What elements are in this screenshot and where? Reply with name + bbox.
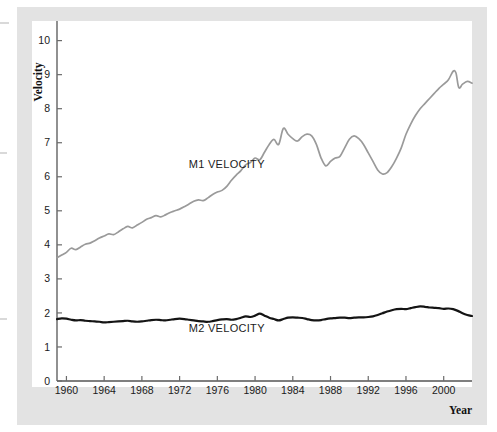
x-axis-tick-label: 1992 bbox=[357, 384, 381, 396]
y-axis-tick-label: 8 bbox=[44, 102, 50, 114]
y-axis-tick-label: 4 bbox=[44, 238, 50, 250]
series-line-m2-velocity bbox=[57, 306, 472, 322]
y-axis-tick-label: 0 bbox=[44, 375, 50, 387]
y-axis-title: Velocity bbox=[32, 62, 45, 101]
x-axis-tick-label: 2000 bbox=[432, 384, 456, 396]
y-axis-tick-label: 1 bbox=[44, 341, 50, 353]
y-axis-tick-label: 10 bbox=[38, 34, 50, 46]
x-axis-tick-label: 1984 bbox=[281, 384, 305, 396]
y-axis-tick-label: 2 bbox=[44, 307, 50, 319]
x-axis-tick-label: 1960 bbox=[55, 384, 79, 396]
series-annotation-m2-velocity: M2 VELOCITY bbox=[189, 322, 265, 334]
y-axis-tick-label: 9 bbox=[44, 68, 50, 80]
x-axis-tick-label: 1980 bbox=[243, 384, 267, 396]
annotation-layer: M1 VELOCITYM2 VELOCITY bbox=[189, 158, 265, 333]
series-annotation-m1-velocity: M1 VELOCITY bbox=[189, 158, 265, 170]
y-axis-tick-label: 5 bbox=[44, 204, 50, 216]
figure-container: 0123456789101960196419681972197619801984… bbox=[0, 0, 497, 432]
x-axis-tick-label: 1996 bbox=[394, 384, 418, 396]
x-axis-tick-label: 1964 bbox=[92, 384, 116, 396]
x-axis-title: Year bbox=[449, 404, 472, 416]
y-axis-tick-label: 6 bbox=[44, 170, 50, 182]
y-axis-tick-label: 3 bbox=[44, 272, 50, 284]
y-axis-tick-label: 7 bbox=[44, 136, 50, 148]
series-layer bbox=[57, 71, 472, 323]
x-axis-tick-label: 1988 bbox=[319, 384, 343, 396]
x-axis-tick-label: 1972 bbox=[168, 384, 192, 396]
x-axis-tick-label: 1976 bbox=[206, 384, 230, 396]
tick-label-layer: 0123456789101960196419681972197619801984… bbox=[38, 34, 455, 396]
x-axis-tick-label: 1968 bbox=[130, 384, 154, 396]
velocity-line-chart: 0123456789101960196419681972197619801984… bbox=[0, 0, 497, 432]
